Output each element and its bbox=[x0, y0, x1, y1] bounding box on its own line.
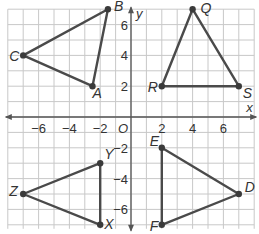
vertex-label-s: S bbox=[243, 85, 253, 101]
x-axis-label: x bbox=[245, 100, 253, 115]
x-tick-label: −2 bbox=[93, 121, 108, 136]
y-tick-label: −6 bbox=[113, 202, 128, 217]
y-tick-label: −4 bbox=[113, 172, 128, 187]
x-tick-label: −4 bbox=[62, 121, 77, 136]
vertex-label-b: B bbox=[114, 0, 123, 14]
triangle-outline bbox=[162, 148, 239, 225]
triangle-outline bbox=[23, 9, 108, 86]
vertex-point-r bbox=[159, 83, 165, 89]
vertex-point-s bbox=[236, 83, 242, 89]
vertex-label-e: E bbox=[150, 133, 160, 149]
y-tick-label: 4 bbox=[121, 48, 128, 63]
y-axis-arrow-down-icon bbox=[128, 225, 134, 232]
vertex-label-z: Z bbox=[8, 183, 18, 199]
y-axis-label: y bbox=[135, 6, 144, 21]
vertex-point-e bbox=[159, 145, 165, 151]
vertex-point-q bbox=[189, 6, 195, 12]
vertex-point-b bbox=[105, 6, 111, 12]
vertex-label-a: A bbox=[92, 85, 102, 101]
vertex-point-x bbox=[97, 222, 103, 228]
vertex-point-z bbox=[20, 191, 26, 197]
x-tick-label: 6 bbox=[220, 121, 227, 136]
vertex-label-c: C bbox=[9, 48, 20, 64]
y-tick-label: −2 bbox=[113, 141, 128, 156]
x-tick-label: 4 bbox=[189, 121, 196, 136]
vertex-label-f: F bbox=[150, 218, 160, 234]
origin-label: O bbox=[118, 121, 128, 136]
vertex-label-d: D bbox=[245, 179, 255, 195]
triangle-xyz: XYZ bbox=[8, 146, 115, 232]
vertex-point-d bbox=[236, 191, 242, 197]
vertex-point-c bbox=[20, 52, 26, 58]
triangle-outline bbox=[162, 9, 239, 86]
triangle-qrs: QRS bbox=[148, 0, 253, 101]
x-tick-label: 2 bbox=[158, 121, 165, 136]
y-tick-label: 2 bbox=[121, 79, 128, 94]
vertex-point-f bbox=[159, 222, 165, 228]
y-tick-label: 6 bbox=[121, 18, 128, 33]
coordinate-plane: xyO −6−4−2246642−2−4−6 ABCQRSXYZDEF bbox=[0, 0, 259, 234]
vertex-label-x: X bbox=[103, 216, 114, 232]
vertex-label-r: R bbox=[148, 79, 158, 95]
x-tick-label: −6 bbox=[31, 121, 46, 136]
vertex-label-q: Q bbox=[201, 0, 212, 16]
x-axis-arrow-left-icon bbox=[5, 114, 12, 120]
vertex-point-y bbox=[97, 160, 103, 166]
